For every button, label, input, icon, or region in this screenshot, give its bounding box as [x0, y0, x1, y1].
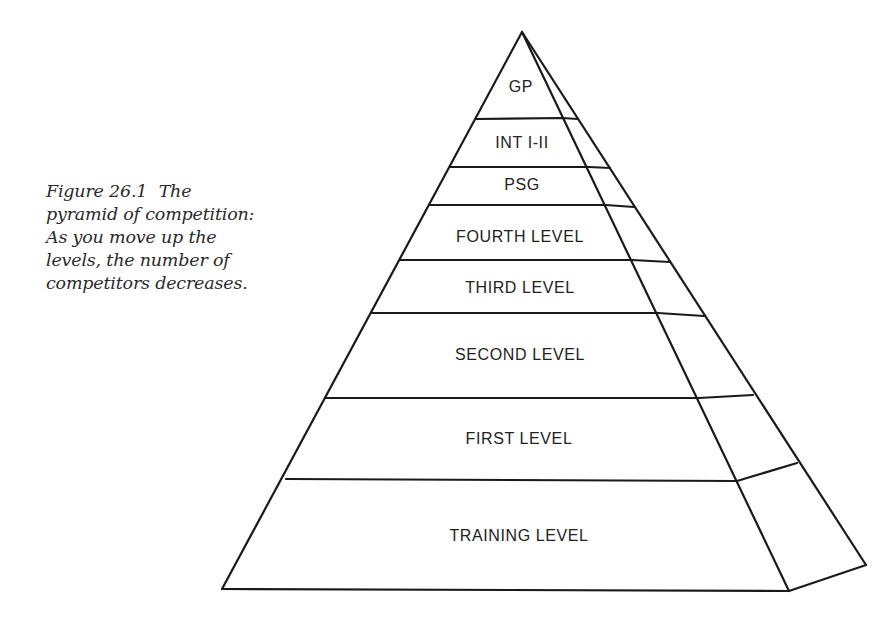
level-label-second: SECOND LEVEL	[455, 346, 585, 363]
pyramid-base-side	[789, 565, 866, 591]
level-divider	[450, 167, 610, 168]
pyramid-left-edge	[222, 32, 522, 589]
pyramid-diagram: GP INT I-II PSG FOURTH LEVEL THIRD LEVEL…	[0, 0, 896, 621]
level-label-fourth: FOURTH LEVEL	[456, 228, 584, 245]
level-divider	[430, 205, 634, 207]
level-divider	[400, 260, 670, 262]
pyramid-base-front	[222, 589, 789, 591]
pyramid-ridge-edge	[522, 32, 789, 591]
level-label-training: TRAINING LEVEL	[449, 527, 588, 544]
level-divider	[476, 118, 578, 119]
level-divider	[371, 313, 704, 316]
level-label-third: THIRD LEVEL	[465, 279, 575, 296]
level-label-int: INT I-II	[495, 134, 548, 151]
level-label-gp: GP	[509, 78, 533, 95]
level-divider	[325, 395, 753, 398]
level-label-first: FIRST LEVEL	[466, 430, 573, 447]
level-divider	[286, 463, 797, 481]
level-label-psg: PSG	[504, 176, 540, 193]
pyramid-right-back-edge	[522, 32, 866, 565]
